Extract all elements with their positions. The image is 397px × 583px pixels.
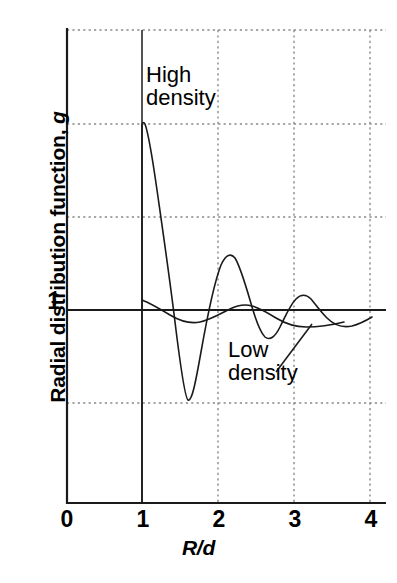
x-tick-label-2: 2	[204, 506, 234, 533]
x-axis-title: R/d	[0, 536, 397, 560]
y-axis-title: Radial distribution function, g	[46, 87, 70, 427]
grid-lines	[67, 30, 386, 503]
x-tick-label-0: 0	[52, 506, 82, 533]
x-tick-label-1: 1	[128, 506, 158, 533]
curve-high-density	[142, 123, 372, 504]
series-label-high-density: High density	[146, 64, 216, 110]
y-axis-title-symbol: g	[46, 111, 69, 124]
axis-lines	[66, 28, 386, 504]
x-tick-label-3: 3	[280, 506, 310, 533]
series-label-low-density: Low density	[228, 339, 298, 385]
y-axis-title-text: Radial distribution function,	[46, 124, 69, 403]
chart-figure: Radial distribution function, g R/d 0 1 …	[0, 0, 397, 583]
y-tick-label-1: 1	[38, 288, 60, 315]
x-tick-label-4: 4	[356, 506, 386, 533]
